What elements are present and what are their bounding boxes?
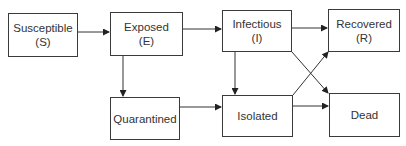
node-abbr: (S)	[35, 35, 50, 49]
node-susceptible: Susceptible (S)	[8, 13, 78, 57]
node-label: Isolated	[237, 109, 277, 123]
node-label: Exposed	[124, 20, 169, 34]
node-label: Quarantined	[113, 112, 176, 126]
node-recovered: Recovered (R)	[328, 9, 400, 52]
node-abbr: (R)	[356, 31, 372, 45]
node-label: Dead	[351, 108, 379, 122]
node-label: Susceptible	[13, 21, 72, 35]
node-abbr: (E)	[139, 34, 154, 48]
node-exposed: Exposed (E)	[110, 12, 183, 56]
node-dead: Dead	[329, 93, 400, 137]
node-infectious: Infectious (I)	[222, 10, 292, 52]
node-isolated: Isolated	[222, 95, 293, 137]
node-abbr: (I)	[252, 31, 263, 45]
node-label: Infectious	[232, 17, 281, 31]
node-quarantined: Quarantined	[110, 97, 180, 140]
node-label: Recovered	[336, 17, 392, 31]
